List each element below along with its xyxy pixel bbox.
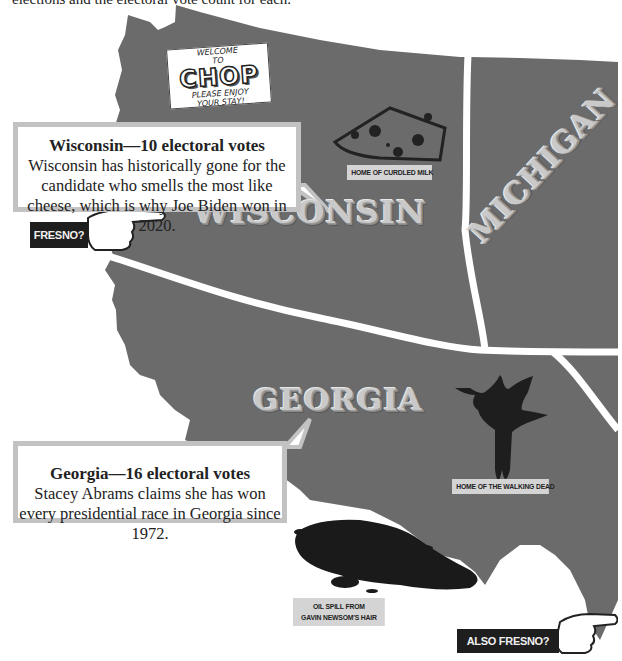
also-fresno-tag: ALSO FRESNO? xyxy=(457,629,559,653)
callout-georgia: Georgia—16 electoral votes Stacey Abrams… xyxy=(13,441,287,523)
callout-wisconsin-title: Wisconsin—10 electoral votes xyxy=(18,136,296,156)
tag-oil-spill-line1: OIL SPILL FROM xyxy=(298,601,380,612)
fresno-tag: FRESNO? xyxy=(30,222,88,248)
pointing-hand-icon-2 xyxy=(556,614,618,653)
sign-name: CHOP xyxy=(168,62,269,93)
state-label-georgia: GEORGIA xyxy=(253,382,422,417)
tag-walking-dead: HOME OF THE WALKING DEAD xyxy=(452,479,549,494)
callout-wisconsin: Wisconsin—10 electoral votes Wisconsin h… xyxy=(13,122,301,212)
tag-oil-spill: OIL SPILL FROM GAVIN NEWSOM'S HAIR xyxy=(293,598,385,626)
tag-oil-spill-line2: GAVIN NEWSOM'S HAIR xyxy=(298,612,380,623)
welcome-sign: WELCOME TO CHOP PLEASE ENJOY YOUR STAY! xyxy=(166,43,272,110)
callout-georgia-title: Georgia—16 electoral votes xyxy=(18,464,282,484)
tag-cheese: HOME OF CURDLED MILK xyxy=(347,165,432,180)
callout-georgia-body: Stacey Abrams claims she has won every p… xyxy=(18,484,282,544)
